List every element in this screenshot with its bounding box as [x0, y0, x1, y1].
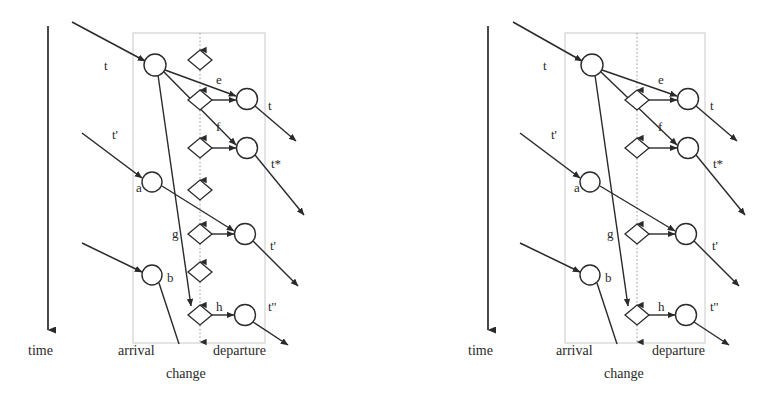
label-edge-e: e [658, 72, 664, 87]
change-diamond [188, 90, 212, 110]
label-departure: departure [652, 343, 705, 358]
change-diamond [188, 262, 212, 282]
departure-node-tprime [676, 224, 697, 245]
label-node-t: t [104, 58, 108, 73]
departure-event-nodes [235, 89, 258, 326]
b-outgoing-line [597, 283, 617, 344]
incoming-train-lines [513, 22, 582, 272]
figure-canvas: t t' a b e f g h t t* t' t'' time arriva… [0, 0, 774, 396]
right-diagram-panel: t t' a b e f g h t t* t' t'' time arriva… [387, 0, 774, 396]
label-departure-tdprime: t'' [268, 299, 276, 314]
label-departure-tprime: t' [270, 238, 276, 253]
change-diamond [188, 50, 212, 70]
label-departure-tdprime: t'' [710, 299, 718, 314]
label-edge-f: f [216, 119, 221, 134]
label-departure-t: t [268, 98, 272, 113]
departing-train-lines [253, 106, 304, 345]
arrival-node-b [580, 265, 600, 285]
arrival-event-nodes [580, 54, 603, 285]
label-arrival: arrival [556, 343, 593, 358]
label-edge-h: h [658, 299, 665, 314]
change-activity-diamonds [188, 50, 212, 325]
label-change: change [166, 366, 206, 381]
label-edge-e: e [216, 72, 222, 87]
arrival-node-a [142, 172, 162, 192]
arrival-node-a [580, 172, 600, 192]
departure-node-t [237, 89, 258, 110]
departure-node-t [678, 89, 699, 110]
label-arrival: arrival [118, 343, 155, 358]
change-diamond [188, 180, 212, 200]
label-node-t: t [543, 58, 547, 73]
arrival-node-t [581, 54, 603, 76]
arrival-node-b [142, 265, 162, 285]
change-diamond [188, 224, 212, 244]
change-diamond [188, 305, 212, 325]
change-diamond [625, 138, 649, 158]
departure-node-tstar [678, 138, 699, 159]
change-diamond [625, 224, 649, 244]
label-edge-f: f [658, 119, 663, 134]
label-departure-tstar: t* [713, 156, 723, 171]
left-diagram-panel: t t' a b e f g h t t* t' t'' time arriva… [0, 0, 387, 396]
label-edge-h: h [216, 299, 223, 314]
departure-node-tstar [237, 138, 258, 159]
arrival-node-t [144, 54, 166, 76]
label-departure-tprime: t' [712, 238, 718, 253]
label-node-a: a [136, 180, 142, 195]
label-edge-g: g [607, 226, 614, 241]
departure-node-tdprime [676, 305, 697, 326]
label-departure-tstar: t* [271, 156, 281, 171]
label-incoming-tp: t' [112, 127, 118, 142]
incoming-train-lines [72, 22, 145, 272]
label-node-a: a [574, 180, 580, 195]
arrival-event-nodes [142, 54, 166, 285]
change-diamond [625, 90, 649, 110]
label-change: change [604, 366, 644, 381]
departure-node-tprime [235, 224, 256, 245]
change-diamond [188, 138, 212, 158]
label-time: time [468, 343, 493, 358]
label-edge-g: g [172, 226, 179, 241]
change-diamond [625, 305, 649, 325]
label-departure: departure [213, 343, 266, 358]
label-incoming-tp: t' [551, 127, 557, 142]
departure-event-nodes [676, 89, 699, 326]
departing-train-lines [694, 106, 745, 345]
b-outgoing-line [159, 283, 179, 344]
departure-node-tdprime [235, 305, 256, 326]
label-departure-t: t [710, 98, 714, 113]
label-node-b: b [167, 270, 174, 285]
label-node-b: b [605, 270, 612, 285]
label-time: time [28, 343, 53, 358]
